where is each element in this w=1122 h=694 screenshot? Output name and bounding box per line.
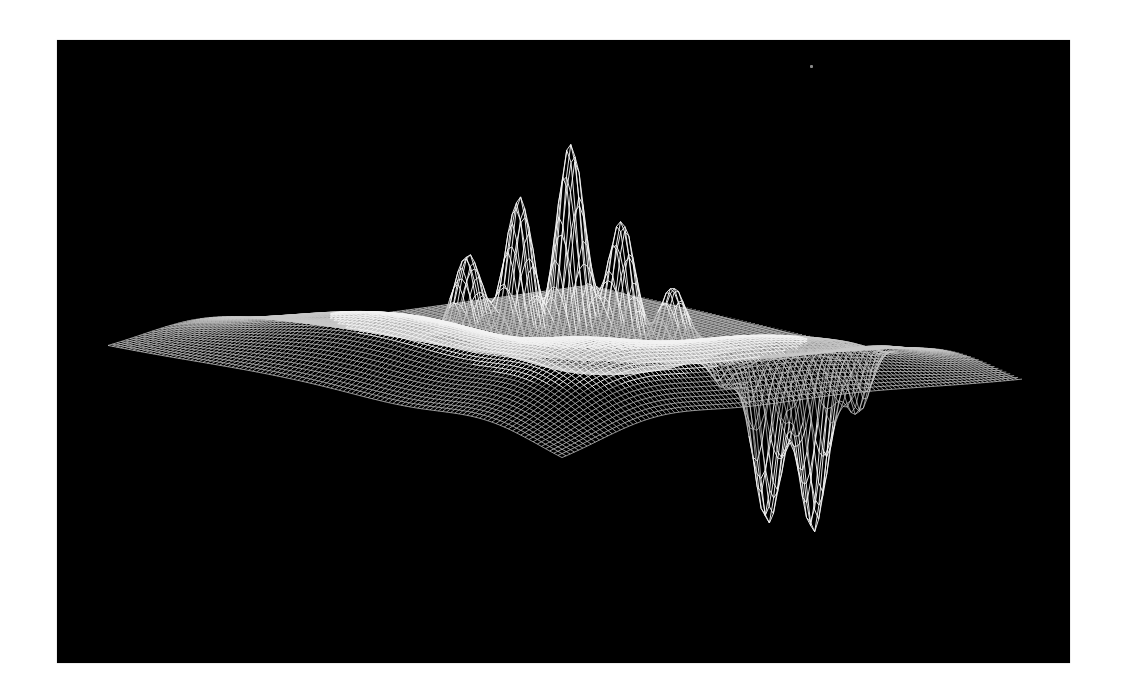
surface-plot-panel: 3D wireframe surface plot on black backg… — [57, 40, 1070, 663]
wireframe-surface-canvas — [57, 40, 1070, 663]
figure-frame: 3D wireframe surface plot on black backg… — [0, 0, 1122, 694]
noise-speck — [810, 65, 813, 68]
